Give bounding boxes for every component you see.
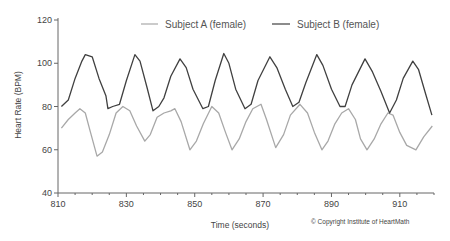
y-axis-title: Heart Rate (BPM) [13, 71, 23, 139]
y-tick-label: 60 [42, 145, 52, 155]
y-tick-label: 80 [42, 102, 52, 112]
x-tick-label: 810 [50, 199, 65, 209]
heart-rate-chart: 406080100120 810830850870890910 Heart Ra… [0, 0, 450, 241]
y-tick-label: 100 [37, 58, 52, 68]
x-tick-label: 850 [187, 199, 202, 209]
y-tick-label: 40 [42, 188, 52, 198]
x-tick-label: 910 [392, 199, 407, 209]
series-subject-b [61, 54, 432, 116]
y-axis: 406080100120 [37, 15, 58, 198]
x-tick-label: 830 [119, 199, 134, 209]
series-subject-a [61, 104, 432, 156]
copyright-note: © Copyright Institute of HeartMath [311, 218, 410, 226]
x-axis-title: Time (seconds) [211, 220, 269, 230]
legend: Subject A (female) Subject B (female) [141, 19, 379, 30]
x-axis: 810830850870890910 [50, 193, 434, 209]
legend-label-subject-a: Subject A (female) [165, 19, 246, 30]
x-tick-label: 870 [256, 199, 271, 209]
legend-label-subject-b: Subject B (female) [297, 19, 379, 30]
y-tick-label: 120 [37, 15, 52, 25]
x-tick-label: 890 [324, 199, 339, 209]
